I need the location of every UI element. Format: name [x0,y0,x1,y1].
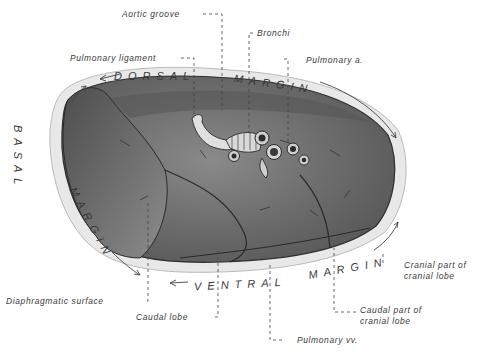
label-caudal-part-line1: Caudal part of [360,305,422,315]
leader-pulmonary-vv [270,262,282,340]
label-dorsal: DORSAL [114,70,195,82]
lung-diagram: Aortic groove Bronchi Pulmonary ligament… [0,0,502,352]
leader-caudal-part [334,248,356,312]
label-pulmonary-vv: Pulmonary vv. [297,335,358,345]
label-pulmonary-ligament: Pulmonary ligament [70,53,156,63]
label-caudal-part-line2: cranial lobe [360,316,411,326]
label-caudal-lobe: Caudal lobe [136,312,188,322]
label-aortic-groove: Aortic groove [122,9,180,19]
label-basal: BASAL [12,125,24,190]
arrow-head-icon [134,270,140,275]
label-cranial-part-line2: cranial lobe [404,271,455,281]
label-bronchi: Bronchi [257,28,290,38]
label-pulmonary-a: Pulmonary a. [306,55,363,65]
label-diaphragmatic-surface: Diaphragmatic surface [6,296,104,306]
label-cranial-part-line1: Cranial part of [404,260,466,270]
